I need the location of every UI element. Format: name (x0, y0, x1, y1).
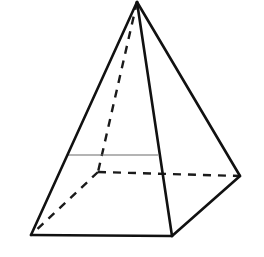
pyramid-figure (0, 0, 264, 257)
pyramid-diagram (0, 0, 264, 257)
edge-base-front (31, 235, 172, 236)
